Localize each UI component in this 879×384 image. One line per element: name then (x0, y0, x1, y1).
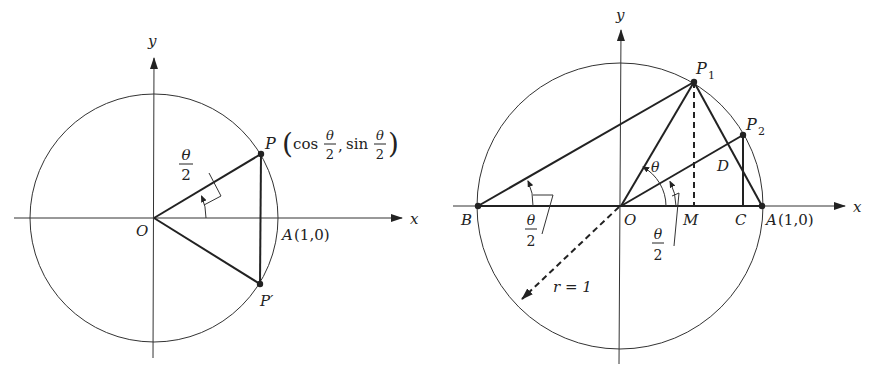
angle-arc-half-theta (202, 196, 207, 218)
angle-leader (204, 173, 221, 205)
svg-text:(: ( (282, 127, 293, 160)
svg-text:): ) (388, 127, 399, 160)
point-D-label: D (716, 157, 729, 175)
angle-arc-half-theta-B (528, 181, 533, 206)
figure-left: x y O A (1,0) P′ θ 2 P ( cos θ (14, 32, 419, 358)
angle-label-half-theta-O: θ 2 (652, 226, 664, 263)
svg-text:θ: θ (376, 128, 384, 143)
svg-text:2: 2 (654, 247, 663, 263)
y-axis (153, 58, 154, 358)
point-P-prime-label: P′ (259, 292, 274, 310)
angle-arc-half-theta-O (670, 182, 676, 207)
svg-text:θ: θ (527, 212, 536, 228)
point-P-prime (257, 281, 263, 287)
y-axis-label: y (147, 32, 157, 50)
svg-text:sin: sin (346, 135, 368, 153)
point-A-label: A (764, 211, 777, 229)
point-B (475, 203, 481, 209)
svg-text:2: 2 (376, 147, 384, 162)
point-A-coords: (1,0) (294, 226, 330, 244)
svg-text:θ: θ (654, 226, 663, 242)
x-axis-label: x (853, 198, 862, 216)
y-axis-label: y (615, 6, 625, 24)
point-B-label: B (460, 211, 472, 229)
point-P1-label: P (695, 59, 707, 78)
svg-text:cos: cos (293, 135, 318, 153)
svg-text:2: 2 (326, 147, 334, 162)
angle-leader-B (533, 195, 553, 234)
svg-text:,: , (338, 137, 343, 155)
point-C-label: C (735, 211, 747, 229)
point-P1-sub: 1 (708, 69, 715, 82)
point-M-label: M (682, 211, 699, 229)
diagram-canvas: x y O A (1,0) P′ θ 2 P ( cos θ (0, 0, 879, 384)
svg-text:2: 2 (527, 233, 536, 249)
point-A (759, 203, 765, 209)
segment-OP (154, 154, 261, 218)
svg-text:θ: θ (181, 146, 190, 164)
radius-label: r = 1 (553, 278, 592, 296)
point-A-label: A (280, 226, 293, 244)
point-P (258, 151, 264, 157)
segment-OP-prime (154, 218, 260, 284)
angle-theta-label: θ (651, 159, 660, 175)
point-P1 (691, 79, 697, 85)
svg-text:2: 2 (181, 166, 191, 184)
point-P2-sub: 2 (758, 125, 765, 138)
origin-label: O (624, 211, 636, 229)
segment-P-P-prime (260, 154, 261, 284)
svg-text:θ: θ (326, 128, 334, 143)
point-A-coords: (1,0) (778, 211, 814, 229)
angle-label-half-theta-B: θ 2 (525, 212, 537, 249)
svg-text:P: P (264, 134, 276, 153)
figure-right: x y P 1 P 2 D B O M C (453, 6, 862, 364)
y-axis (619, 30, 621, 364)
origin-label: O (136, 222, 148, 240)
point-P2-label: P (745, 115, 757, 134)
point-P-coordinates: P ( cos θ 2 , sin θ 2 ) (264, 127, 399, 162)
angle-label-half-theta: θ 2 (179, 146, 193, 184)
x-axis-label: x (410, 210, 419, 228)
segment-OP1 (621, 82, 694, 206)
